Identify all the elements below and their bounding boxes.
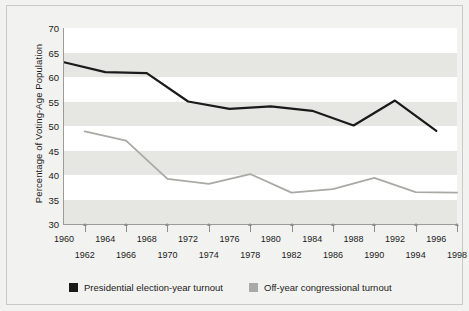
legend-item: Off-year congressional turnout bbox=[249, 280, 392, 294]
x-tick bbox=[292, 225, 293, 232]
x-tick-label-presidential: 1972 bbox=[171, 234, 205, 244]
x-tick-arrow-icon bbox=[290, 223, 294, 226]
x-tick-arrow-icon bbox=[248, 223, 252, 226]
y-tick-label: 30 bbox=[35, 219, 59, 230]
x-tick-arrow-icon bbox=[124, 223, 128, 226]
x-tick-arrow-icon bbox=[83, 223, 87, 226]
x-tick bbox=[167, 225, 168, 232]
x-tick-arrow-icon bbox=[414, 223, 418, 226]
legend-item: Presidential election-year turnout bbox=[69, 280, 223, 294]
y-tick-label: 60 bbox=[35, 72, 59, 83]
x-tick bbox=[333, 225, 334, 232]
x-tick bbox=[416, 225, 417, 232]
x-tick-arrow-icon bbox=[372, 223, 376, 226]
x-tick-label-presidential: 1976 bbox=[212, 234, 246, 244]
series-lines bbox=[64, 28, 457, 224]
legend-label: Off-year congressional turnout bbox=[264, 282, 392, 293]
x-tick-label-offyear: 1966 bbox=[109, 250, 143, 260]
x-tick-label-offyear: 1986 bbox=[316, 250, 350, 260]
x-tick-arrow-icon bbox=[331, 223, 335, 226]
x-tick-arrow-icon bbox=[207, 223, 211, 226]
x-tick-label-offyear: 1998 bbox=[440, 250, 469, 260]
legend-label: Presidential election-year turnout bbox=[84, 282, 223, 293]
y-tick-label: 55 bbox=[35, 96, 59, 107]
x-tick-label-offyear: 1978 bbox=[233, 250, 267, 260]
x-tick-label-presidential: 1980 bbox=[254, 234, 288, 244]
x-tick-label-presidential: 1968 bbox=[130, 234, 164, 244]
x-tick-arrow-icon bbox=[165, 223, 169, 226]
chart-frame: Percentage of Voting-Age Population 3035… bbox=[6, 5, 463, 305]
x-tick-label-presidential: 1996 bbox=[419, 234, 453, 244]
x-tick-arrow-icon bbox=[455, 223, 459, 226]
x-tick bbox=[457, 225, 458, 232]
x-tick-label-offyear: 1962 bbox=[68, 250, 102, 260]
x-tick bbox=[85, 225, 86, 232]
x-tick bbox=[209, 225, 210, 232]
series-line-presidential bbox=[64, 62, 436, 131]
legend-swatch bbox=[249, 283, 258, 292]
y-tick-label: 70 bbox=[35, 23, 59, 34]
y-axis-line bbox=[63, 28, 64, 224]
x-tick-label-presidential: 1988 bbox=[337, 234, 371, 244]
legend-swatch bbox=[69, 283, 78, 292]
y-tick-label: 45 bbox=[35, 145, 59, 156]
x-axis-line bbox=[63, 224, 457, 225]
x-tick bbox=[250, 225, 251, 232]
x-tick bbox=[126, 225, 127, 232]
y-tick-label: 65 bbox=[35, 47, 59, 58]
x-tick-label-offyear: 1990 bbox=[357, 250, 391, 260]
x-tick bbox=[374, 225, 375, 232]
x-tick-label-presidential: 1960 bbox=[47, 234, 81, 244]
x-tick-label-offyear: 1970 bbox=[150, 250, 184, 260]
y-tick-label: 35 bbox=[35, 194, 59, 205]
x-tick-label-presidential: 1984 bbox=[295, 234, 329, 244]
chart-figure: Percentage of Voting-Age Population 3035… bbox=[0, 0, 469, 311]
y-tick-label: 40 bbox=[35, 170, 59, 181]
y-tick-label: 50 bbox=[35, 121, 59, 132]
plot-area bbox=[64, 28, 457, 224]
x-tick-label-offyear: 1982 bbox=[275, 250, 309, 260]
x-tick-label-presidential: 1992 bbox=[378, 234, 412, 244]
x-tick-label-presidential: 1964 bbox=[88, 234, 122, 244]
x-tick-label-offyear: 1974 bbox=[192, 250, 226, 260]
series-line-offyear bbox=[85, 131, 457, 192]
x-tick-label-offyear: 1994 bbox=[399, 250, 433, 260]
